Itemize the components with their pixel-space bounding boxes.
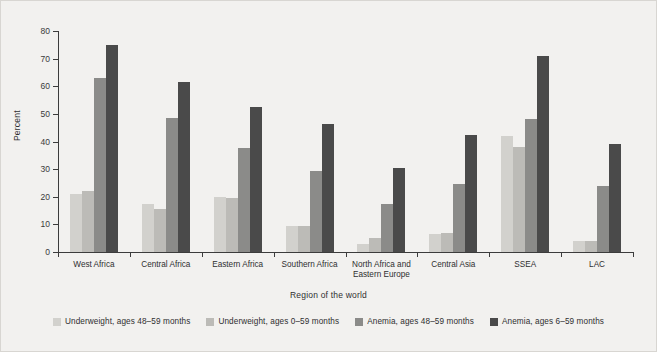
legend-item: Underweight, ages 48–59 months: [53, 317, 190, 326]
legend-swatch: [206, 318, 214, 326]
bar: [178, 82, 190, 252]
bar-group: [202, 31, 274, 252]
chart-legend: Underweight, ages 48–59 monthsUnderweigh…: [1, 317, 656, 326]
legend-label: Underweight, ages 0–59 months: [218, 317, 339, 326]
bar-group: [58, 31, 130, 252]
x-tick: [130, 252, 131, 257]
bar-group: [561, 31, 633, 252]
bar: [441, 233, 453, 252]
bar: [238, 148, 250, 252]
y-tick-label: 30: [41, 165, 50, 174]
bar: [609, 144, 621, 252]
legend-label: Underweight, ages 48–59 months: [65, 317, 190, 326]
y-tick-label: 60: [41, 82, 50, 91]
bar: [453, 184, 465, 252]
bar-group: [274, 31, 346, 252]
x-axis-category-label: Central Asia: [417, 260, 489, 270]
bar: [154, 209, 166, 252]
bar: [94, 78, 106, 252]
bar: [393, 168, 405, 252]
chart-figure: Percent 01020304050607080 West AfricaCen…: [0, 0, 657, 352]
bar: [381, 204, 393, 252]
bar: [597, 186, 609, 252]
y-axis-title: Percent: [12, 110, 22, 141]
x-axis-category-label: Eastern Africa: [202, 260, 274, 270]
bar: [369, 238, 381, 252]
bar: [322, 124, 334, 252]
bar: [214, 197, 226, 252]
x-axis-category-label: North Africa and Eastern Europe: [346, 260, 418, 280]
bar: [537, 56, 549, 252]
x-tick: [633, 252, 634, 257]
bar: [513, 147, 525, 252]
bar: [585, 241, 597, 252]
x-axis-category-label: SSEA: [489, 260, 561, 270]
x-axis-category-label: Central Africa: [130, 260, 202, 270]
bar: [70, 194, 82, 252]
y-tick-label: 40: [41, 137, 50, 146]
legend-item: Anemia, ages 6–59 months: [490, 317, 604, 326]
bar: [226, 198, 238, 252]
bar: [310, 171, 322, 252]
bar: [573, 241, 585, 252]
bar: [250, 107, 262, 252]
bar: [142, 204, 154, 252]
x-tick: [58, 252, 59, 257]
x-tick: [561, 252, 562, 257]
x-axis-category-label: Southern Africa: [274, 260, 346, 270]
bar: [106, 45, 118, 252]
x-axis-category-label: West Africa: [58, 260, 130, 270]
legend-label: Anemia, ages 48–59 months: [367, 317, 474, 326]
bar-group: [130, 31, 202, 252]
plot-area: 01020304050607080: [58, 31, 633, 252]
bar: [286, 226, 298, 252]
x-tick: [202, 252, 203, 257]
y-tick-label: 0: [45, 248, 50, 257]
bar: [525, 119, 537, 252]
legend-item: Anemia, ages 48–59 months: [355, 317, 474, 326]
y-tick-label: 50: [41, 110, 50, 119]
bar: [501, 136, 513, 252]
legend-swatch: [355, 318, 363, 326]
bar: [429, 234, 441, 252]
x-tick: [417, 252, 418, 257]
bar-group: [346, 31, 418, 252]
legend-swatch: [490, 318, 498, 326]
x-axis-title: Region of the world: [1, 290, 656, 300]
y-tick-label: 70: [41, 54, 50, 63]
bar: [465, 135, 477, 252]
bar: [357, 244, 369, 252]
bar-group: [489, 31, 561, 252]
y-tick-label: 10: [41, 220, 50, 229]
legend-label: Anemia, ages 6–59 months: [502, 317, 604, 326]
x-tick: [274, 252, 275, 257]
y-tick-label: 20: [41, 193, 50, 202]
bar: [298, 226, 310, 252]
bar: [82, 191, 94, 252]
legend-swatch: [53, 318, 61, 326]
x-tick: [346, 252, 347, 257]
x-tick: [489, 252, 490, 257]
bar: [166, 118, 178, 252]
legend-item: Underweight, ages 0–59 months: [206, 317, 339, 326]
x-axis-category-label: LAC: [561, 260, 633, 270]
y-tick-label: 80: [41, 27, 50, 36]
bar-group: [417, 31, 489, 252]
